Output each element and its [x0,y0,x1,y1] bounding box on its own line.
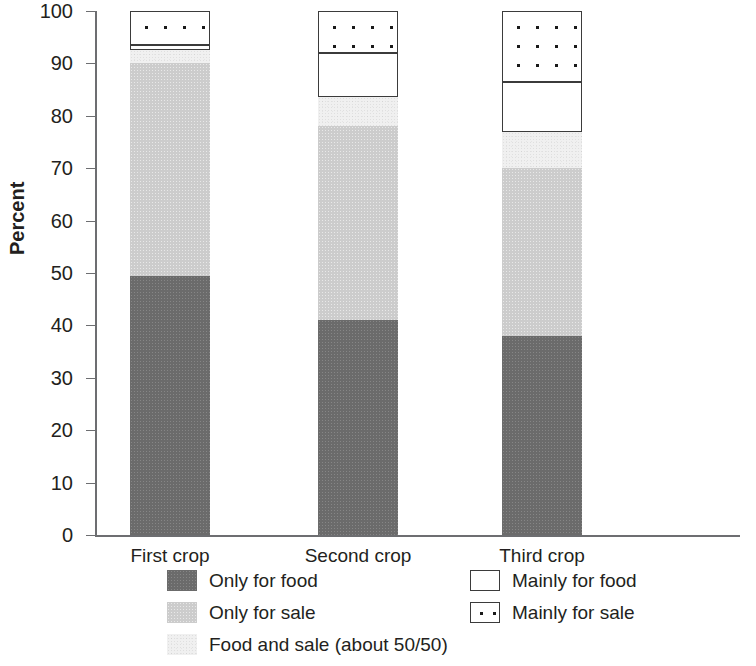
y-tick-label-0: 0 [62,525,73,545]
legend-item-mainly-for-food[interactable]: Mainly for food [470,570,637,591]
y-tick-10: 10 [86,483,95,484]
bar-segment-only_for_food [318,320,398,535]
y-axis-title: Percent [6,182,29,255]
y-tick-20: 20 [86,430,95,431]
plot-area: 100 90 80 70 60 50 40 30 20 10 0 [95,11,740,535]
y-tick-label-50: 50 [51,263,73,283]
legend-label-food-and-sale: Food and sale (about 50/50) [209,635,448,654]
legend-label-mainly-for-food: Mainly for food [512,571,637,590]
legend-swatch-mainly-for-food-icon [470,570,500,591]
bar-segment-mainly_for_food [318,53,398,98]
legend: Only for food Only for sale Food and sal… [0,566,756,666]
y-tick-label-80: 80 [51,106,73,126]
legend-swatch-food-and-sale-icon [167,634,197,655]
bar-segment-mainly_for_sale [318,11,398,53]
y-tick-label-60: 60 [51,211,73,231]
y-tick-60: 60 [86,221,95,222]
bar-segment-food_and_sale [130,50,210,63]
bar-segment-mainly_for_sale [502,11,582,82]
legend-item-mainly-for-sale[interactable]: Mainly for sale [470,602,635,623]
bar-segment-only_for_food [130,276,210,535]
legend-item-only-for-food[interactable]: Only for food [167,570,318,591]
y-tick-label-30: 30 [51,368,73,388]
bar-segment-mainly_for_food [502,82,582,132]
y-axis-line [95,11,97,535]
legend-swatch-only-for-food-icon [167,570,197,591]
y-tick-label-90: 90 [51,53,73,73]
bar-segment-food_and_sale [502,132,582,169]
legend-label-only-for-sale: Only for sale [209,603,316,622]
bar-segment-food_and_sale [318,97,398,126]
legend-label-mainly-for-sale: Mainly for sale [512,603,635,622]
y-tick-50: 50 [86,273,95,274]
y-tick-label-100: 100 [40,1,73,21]
x-axis-line [95,535,740,537]
y-tick-label-20: 20 [51,420,73,440]
y-tick-label-70: 70 [51,158,73,178]
bar-segment-only_for_sale [130,63,210,275]
x-axis-label-third-crop: Third crop [499,545,585,567]
y-tick-30: 30 [86,378,95,379]
stacked-bar-chart: Percent 100 90 80 70 60 50 40 30 20 [0,0,756,666]
y-tick-label-10: 10 [51,473,73,493]
legend-swatch-only-for-sale-icon [167,602,197,623]
y-tick-40: 40 [86,325,95,326]
y-tick-80: 80 [86,116,95,117]
legend-swatch-mainly-for-sale-icon [470,602,500,623]
bar-segment-only_for_food [502,336,582,535]
legend-item-only-for-sale[interactable]: Only for sale [167,602,316,623]
bar-segment-mainly_for_food [130,45,210,50]
y-tick-0: 0 [86,535,95,536]
y-tick-70: 70 [86,168,95,169]
x-axis-label-second-crop: Second crop [305,545,412,567]
legend-label-only-for-food: Only for food [209,571,318,590]
y-tick-100: 100 [86,11,95,12]
y-tick-label-40: 40 [51,315,73,335]
bar-segment-mainly_for_sale [130,11,210,45]
bar-segment-only_for_sale [318,126,398,320]
x-axis-label-first-crop: First crop [130,545,209,567]
legend-item-food-and-sale[interactable]: Food and sale (about 50/50) [167,634,448,655]
y-tick-90: 90 [86,63,95,64]
bar-segment-only_for_sale [502,168,582,336]
